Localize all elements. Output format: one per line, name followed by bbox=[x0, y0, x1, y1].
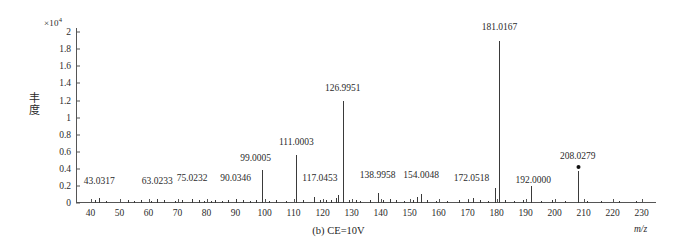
spectrum-peak bbox=[459, 200, 460, 203]
spectrum-peak bbox=[95, 200, 96, 203]
x-axis-tick-label: 150 bbox=[402, 208, 416, 218]
peak-label: 43.0317 bbox=[84, 176, 115, 186]
x-axis-tick-label: 220 bbox=[605, 208, 619, 218]
spectrum-peak bbox=[427, 200, 428, 203]
spectrum-peak bbox=[541, 201, 542, 203]
spectrum-peak bbox=[182, 200, 183, 203]
spectrum-peak bbox=[228, 200, 229, 203]
x-axis-tick-mark bbox=[439, 199, 440, 203]
spectrum-peak-labeled bbox=[314, 197, 315, 203]
spectrum-peak bbox=[243, 200, 244, 203]
x-axis-tick-mark bbox=[526, 199, 527, 203]
spectrum-peak bbox=[338, 195, 339, 203]
x-axis-tick-label: 160 bbox=[431, 208, 445, 218]
spectrum-peak bbox=[447, 201, 448, 203]
y-axis-tick-label: 0.8 bbox=[59, 130, 76, 140]
spectrum-peak bbox=[336, 198, 337, 203]
spectrum-peak bbox=[505, 200, 506, 203]
spectrum-peak bbox=[636, 201, 637, 203]
y-axis-tick-label: 2 bbox=[66, 27, 76, 37]
y-axis-tick-label: 1 bbox=[66, 113, 76, 123]
y-axis-tick-mark bbox=[76, 151, 80, 152]
y-axis-line bbox=[76, 28, 77, 203]
mass-spectrum-figure: ×104 丰度 00.20.40.60.811.21.41.61.82 4050… bbox=[0, 0, 677, 248]
x-axis-tick-mark bbox=[497, 199, 498, 203]
peak-label: 208.0279 bbox=[560, 151, 596, 161]
x-axis-tick-mark bbox=[410, 199, 411, 203]
x-axis-tick-label: 90 bbox=[231, 208, 241, 218]
x-axis-tick-label: 60 bbox=[144, 208, 154, 218]
spectrum-peak bbox=[286, 201, 287, 203]
spectrum-peak bbox=[360, 201, 361, 203]
spectrum-peak-labeled bbox=[343, 101, 344, 203]
spectrum-peak-labeled bbox=[578, 171, 579, 203]
spectrum-peak-labeled bbox=[192, 199, 193, 203]
spectrum-peak-labeled bbox=[531, 186, 532, 203]
x-axis-tick-label: 50 bbox=[115, 208, 125, 218]
y-axis-tick-label: 1.6 bbox=[59, 61, 76, 71]
spectrum-peak bbox=[436, 201, 437, 203]
x-axis-tick-label: 100 bbox=[257, 208, 271, 218]
x-axis-tick-label: 140 bbox=[373, 208, 387, 218]
x-axis-tick-mark bbox=[207, 199, 208, 203]
y-axis-exponent-power: 4 bbox=[59, 16, 62, 23]
peak-label: 111.0003 bbox=[279, 137, 314, 147]
peak-label: 117.0453 bbox=[302, 173, 337, 183]
y-axis-tick-mark bbox=[76, 66, 80, 67]
y-axis-exponent-label: ×104 bbox=[44, 16, 62, 28]
y-axis-tick-label: 0 bbox=[66, 198, 76, 208]
spectrum-peak-labeled bbox=[421, 194, 422, 203]
spectrum-peak-labeled bbox=[157, 199, 158, 203]
spectrum-peak bbox=[199, 200, 200, 203]
spectrum-peak bbox=[404, 201, 405, 203]
x-axis-tick-mark bbox=[584, 199, 585, 203]
y-axis-tick-mark bbox=[76, 203, 80, 204]
x-axis-tick-label: 110 bbox=[287, 208, 301, 218]
x-axis-tick-label: 170 bbox=[460, 208, 474, 218]
spectrum-peak bbox=[164, 200, 165, 203]
y-axis-tick-mark bbox=[76, 100, 80, 101]
spectrum-peak bbox=[222, 201, 223, 203]
spectrum-peak bbox=[276, 200, 277, 203]
x-axis-tick-mark bbox=[91, 199, 92, 203]
x-axis-tick-mark bbox=[120, 199, 121, 203]
spectrum-peak bbox=[303, 200, 304, 203]
y-axis-tick-mark bbox=[76, 185, 80, 186]
spectrum-peak bbox=[468, 200, 469, 203]
spectrum-peak bbox=[151, 201, 152, 203]
x-axis-tick-mark bbox=[642, 199, 643, 203]
y-axis-tick-label: 1.4 bbox=[59, 78, 76, 88]
spectrum-peak bbox=[269, 201, 270, 203]
spectrum-peak bbox=[250, 201, 251, 203]
peak-label: 126.9951 bbox=[325, 83, 361, 93]
x-axis-tick-mark bbox=[613, 199, 614, 203]
x-axis-tick-label: 210 bbox=[576, 208, 590, 218]
spectrum-peak bbox=[488, 201, 489, 203]
spectrum-peak bbox=[619, 201, 620, 203]
peak-label: 138.9958 bbox=[360, 170, 396, 180]
spectrum-peak-labeled bbox=[262, 170, 263, 203]
x-axis-tick-label: 130 bbox=[344, 208, 358, 218]
peak-label: 172.0518 bbox=[454, 173, 490, 183]
y-axis-tick-mark bbox=[76, 83, 80, 84]
spectrum-peak bbox=[175, 201, 176, 203]
x-axis-tick-label: 40 bbox=[86, 208, 96, 218]
spectrum-peak-labeled bbox=[378, 193, 379, 203]
plot-area: 00.20.40.60.811.21.41.61.82 405060708090… bbox=[76, 28, 656, 203]
y-axis-tick-mark bbox=[76, 117, 80, 118]
y-axis-tick-label: 0.4 bbox=[59, 164, 76, 174]
spectrum-peak bbox=[514, 201, 515, 203]
y-axis-tick-mark bbox=[76, 168, 80, 169]
y-axis-tick-label: 0.6 bbox=[59, 147, 76, 157]
spectrum-peak bbox=[552, 200, 553, 203]
x-axis-tick-mark bbox=[323, 199, 324, 203]
spectrum-peak bbox=[134, 201, 135, 203]
x-axis-tick-mark bbox=[149, 199, 150, 203]
spectrum-peak-labeled bbox=[296, 155, 297, 203]
spectrum-peak-labeled bbox=[99, 198, 100, 203]
peak-label: 75.0232 bbox=[177, 173, 208, 183]
x-axis-tick-mark bbox=[265, 199, 266, 203]
spectrum-peak bbox=[128, 200, 129, 203]
spectrum-peak bbox=[587, 201, 588, 203]
x-axis-tick-mark bbox=[381, 199, 382, 203]
